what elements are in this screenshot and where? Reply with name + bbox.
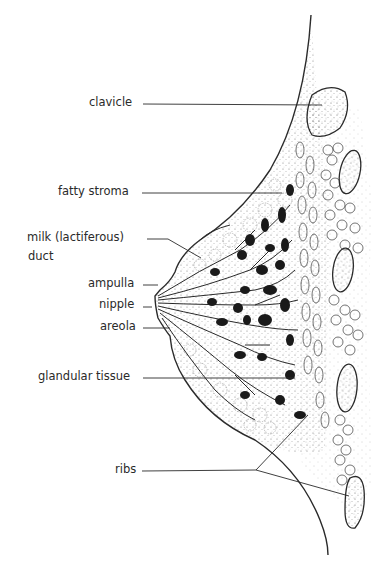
label-fatty-stroma: fatty stroma	[58, 185, 129, 198]
breast-outline	[155, 15, 330, 555]
rib-4	[345, 477, 364, 529]
label-ampulla: ampulla	[88, 277, 134, 290]
label-ribs: ribs	[115, 463, 136, 476]
clavicle-leader	[143, 104, 322, 105]
label-milk-duct-line2: duct	[28, 250, 53, 263]
diagram-illustration	[0, 0, 388, 581]
breast-anatomy-diagram: clavicle fatty stroma milk (lactiferous)…	[0, 0, 388, 581]
label-milk-duct-line1: milk (lactiferous)	[27, 231, 124, 244]
label-areola: areola	[100, 320, 136, 333]
label-clavicle: clavicle	[89, 96, 132, 109]
label-glandular-tissue: glandular tissue	[38, 370, 130, 383]
label-nipple: nipple	[99, 298, 134, 311]
